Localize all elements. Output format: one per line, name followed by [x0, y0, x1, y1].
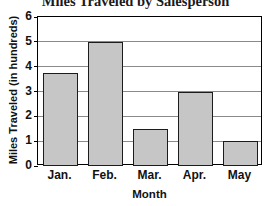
- y-axis-tick-label: 6: [18, 10, 32, 22]
- x-axis-tick-label: May: [217, 168, 262, 182]
- y-axis-tick-label: 5: [18, 35, 32, 47]
- chart-title: Miles Traveled by Salesperson: [0, 0, 271, 10]
- x-axis-tick-label: Mar.: [127, 168, 172, 182]
- y-axis-tick-label: 0: [18, 159, 32, 171]
- bar: [133, 129, 168, 166]
- y-axis-tick-label: 2: [18, 109, 32, 121]
- x-axis-tick-label: Apr.: [172, 168, 217, 182]
- bar: [43, 73, 78, 166]
- x-axis-tick-label: Feb.: [82, 168, 127, 182]
- bar-chart-figure: Miles Traveled by Salesperson Miles Trav…: [0, 0, 271, 206]
- y-axis-tick-label: 4: [18, 60, 32, 72]
- x-axis-title: Month: [37, 188, 262, 200]
- y-axis-tick-label: 3: [18, 85, 32, 97]
- y-axis-tick-label: 1: [18, 134, 32, 146]
- y-axis-tick-labels: 0123456: [17, 0, 32, 206]
- x-axis-tick-labels: Jan.Feb.Mar.Apr.May: [37, 168, 262, 184]
- y-axis-tick-mark: [34, 166, 38, 167]
- x-axis-tick-label: Jan.: [37, 168, 82, 182]
- bar: [88, 42, 123, 166]
- bar: [223, 141, 258, 166]
- bar: [178, 92, 213, 167]
- plot-area: [37, 16, 262, 165]
- bar-series: [38, 17, 261, 164]
